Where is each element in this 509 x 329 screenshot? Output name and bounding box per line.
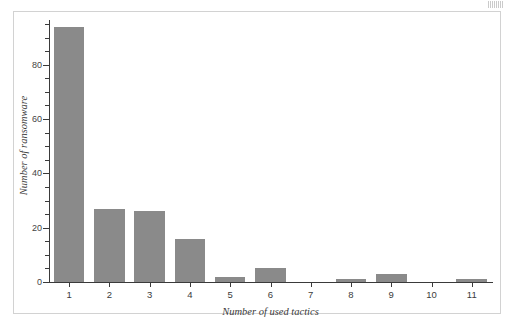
x-axis-tick xyxy=(311,282,312,287)
y-axis-minor-tick xyxy=(45,133,49,134)
x-axis-tick xyxy=(391,282,392,287)
figure-container: 020406080 1234567891011 Number of used t… xyxy=(0,0,509,329)
y-axis-major-tick xyxy=(43,119,49,120)
x-axis-tick xyxy=(150,282,151,287)
y-axis-major-tick xyxy=(43,65,49,66)
scan-artifact-mark xyxy=(488,1,504,8)
bar xyxy=(134,211,165,282)
bar-slot xyxy=(411,24,451,282)
bar-series xyxy=(49,24,492,282)
y-axis-major-tick xyxy=(43,282,49,283)
x-axis-tick-label: 8 xyxy=(331,289,371,305)
y-axis-minor-tick xyxy=(45,146,49,147)
y-axis-minor-tick xyxy=(45,105,49,106)
bar xyxy=(376,274,407,282)
y-axis-minor-tick xyxy=(45,38,49,39)
x-axis-title: Number of used tactics xyxy=(49,306,492,317)
x-axis-tick-labels: 1234567891011 xyxy=(49,289,492,305)
x-axis-tick-label: 9 xyxy=(371,289,411,305)
x-axis-tick xyxy=(472,282,473,287)
y-axis-minor-tick xyxy=(45,24,49,25)
bar-slot xyxy=(49,24,89,282)
y-axis-major-tick xyxy=(43,228,49,229)
bar-slot xyxy=(250,24,290,282)
plot-area xyxy=(49,24,492,282)
y-axis-major-tick xyxy=(43,173,49,174)
bar-slot xyxy=(371,24,411,282)
y-axis-minor-tick xyxy=(45,92,49,93)
x-axis-tick-label: 1 xyxy=(49,289,89,305)
x-axis-tick xyxy=(190,282,191,287)
y-axis-tick-label: 0 xyxy=(22,277,42,287)
bar xyxy=(175,239,206,282)
x-axis-tick-label: 4 xyxy=(170,289,210,305)
y-axis-minor-tick xyxy=(45,51,49,52)
bar-slot xyxy=(210,24,250,282)
bar-slot xyxy=(89,24,129,282)
x-axis-tick xyxy=(271,282,272,287)
y-axis-minor-tick xyxy=(45,187,49,188)
x-axis-tick-label: 6 xyxy=(250,289,290,305)
y-axis-minor-tick xyxy=(45,255,49,256)
x-axis-tick-label: 5 xyxy=(210,289,250,305)
x-axis-tick-label: 3 xyxy=(130,289,170,305)
y-axis-line xyxy=(49,20,50,283)
y-axis-minor-tick xyxy=(45,214,49,215)
y-axis-minor-tick xyxy=(45,160,49,161)
y-axis-minor-tick xyxy=(45,241,49,242)
y-axis-minor-tick xyxy=(45,78,49,79)
bar-slot xyxy=(170,24,210,282)
bar xyxy=(94,209,125,282)
bar-slot xyxy=(331,24,371,282)
bar-slot xyxy=(291,24,331,282)
x-axis-tick-label: 7 xyxy=(291,289,331,305)
y-axis-title: Number of ransomware xyxy=(18,61,29,231)
bar-slot xyxy=(130,24,170,282)
x-axis-tick xyxy=(432,282,433,287)
x-axis-tick-label: 2 xyxy=(89,289,129,305)
x-axis-tick xyxy=(351,282,352,287)
bar xyxy=(255,268,286,282)
y-axis-minor-tick xyxy=(45,201,49,202)
x-axis-tick xyxy=(69,282,70,287)
x-axis-tick xyxy=(109,282,110,287)
x-axis-tick-label: 10 xyxy=(411,289,451,305)
bar-slot xyxy=(452,24,492,282)
bar xyxy=(54,27,85,282)
y-axis-minor-tick xyxy=(45,268,49,269)
x-axis-tick xyxy=(230,282,231,287)
x-axis-tick-label: 11 xyxy=(452,289,492,305)
